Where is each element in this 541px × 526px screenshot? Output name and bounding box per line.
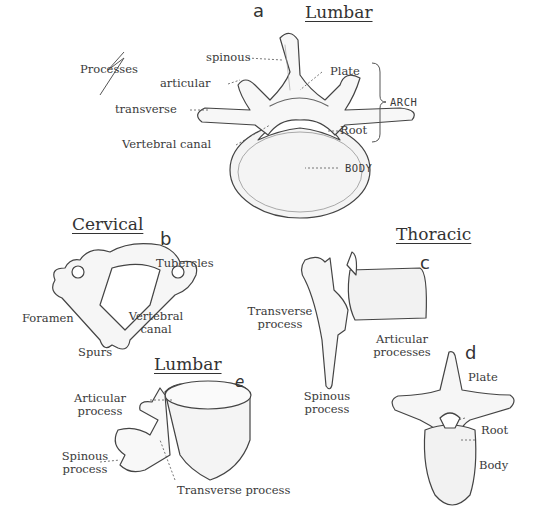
label-canal-line2: canal [140,322,171,336]
label-spurs: Spurs [78,346,112,359]
label-transverse-line2: process [258,317,303,331]
label-spinous-line2: process [305,402,350,416]
label-transverse: transverse [115,103,177,116]
panel-letter-e: e [235,373,244,391]
label-spinous-process-e: Spinous process [50,450,120,476]
label-vertebral-line1: Vertebral [129,309,183,323]
label-plate: Plate [330,65,360,78]
panel-c-title: Thoracic [396,224,471,244]
label-root: Root [340,124,367,137]
label-articular-e-line2: process [78,404,123,418]
label-processes: Processes [80,63,138,76]
label-transverse-process-e: Transverse process [177,484,290,497]
panel-letter-b: b [160,228,171,249]
label-foramen: Foramen [22,312,74,325]
label-spinous: spinous [206,51,251,64]
label-articular-processes-c: Articular processes [362,333,442,359]
panel-letter-a: a [253,0,264,21]
label-articular-process-e: Articular process [60,392,140,418]
label-articular: articular [160,77,211,90]
label-vertebral-canal-b: Vertebral canal [121,310,191,336]
label-spinous-e-line2: process [63,462,108,476]
vertebrae-illustration [0,0,541,526]
label-spinous-e-line1: Spinous [62,449,109,463]
panel-a-title: Lumbar [305,2,373,22]
label-body: BODY [345,162,372,175]
label-body-d: Body [479,459,508,472]
label-articular-e-line1: Articular [74,391,126,405]
panel-letter-d: d [465,342,476,363]
panel-letter-c: c [420,252,430,273]
label-articular-line2: processes [373,345,431,359]
label-vertebral-canal: Vertebral canal [122,138,211,151]
label-articular-line1: Articular [376,332,428,346]
label-spinous-line1: Spinous [304,389,351,403]
panel-e-title: Lumbar [154,354,222,374]
thoracic-lateral-drawing [302,252,427,389]
label-root-d: Root [481,424,508,437]
label-transverse-line1: Transverse [248,304,313,318]
panel-b-title: Cervical [72,214,143,234]
label-arch: ARCH [390,96,417,109]
label-tubercles: Tubercles [156,257,214,270]
label-transverse-process-c: Transverse process [240,305,320,331]
label-plate-d: Plate [468,371,498,384]
vertebrae-diagram: a Lumbar Processes spinous articular tra… [0,0,541,526]
label-spinous-process-c: Spinous process [292,390,362,416]
